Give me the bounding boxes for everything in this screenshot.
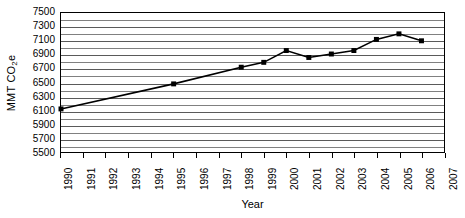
data-point-marker xyxy=(419,38,424,43)
x-axis-tick-label: 2003 xyxy=(358,168,368,190)
y-axis-tick-label: 5700 xyxy=(33,134,55,144)
y-axis-tick-label: 6900 xyxy=(33,49,55,59)
x-axis-tick-label: 2005 xyxy=(404,168,414,190)
x-axis-tick-label: 1996 xyxy=(200,168,210,190)
x-axis-tick-label: 1991 xyxy=(87,168,97,190)
x-axis-tick-label: 1990 xyxy=(64,168,74,190)
x-axis-tick-label: 2007 xyxy=(449,168,459,190)
data-point-marker xyxy=(351,48,356,53)
y-axis-title-text: MMT CO2e xyxy=(5,54,17,111)
data-point-marker xyxy=(284,48,289,53)
data-point-marker xyxy=(261,60,266,65)
data-point-marker xyxy=(396,31,401,36)
data-series-line xyxy=(61,13,444,152)
x-axis-title: Year xyxy=(60,198,445,210)
data-point-marker xyxy=(306,55,311,60)
x-axis-tick-label: 1994 xyxy=(155,168,165,190)
y-axis-tick-label: 5900 xyxy=(33,120,55,130)
chart-container: MMT CO2e 5500570059006100630065006700690… xyxy=(0,0,465,218)
x-axis-tick-label: 1992 xyxy=(109,168,119,190)
x-axis-tick xyxy=(445,153,446,158)
x-axis-tick-label: 1997 xyxy=(223,168,233,190)
y-axis-tick-label: 6300 xyxy=(33,92,55,102)
x-axis-tick-label: 2006 xyxy=(426,168,436,190)
x-axis-tick-label: 2002 xyxy=(336,168,346,190)
y-axis-title-subscript: 2 xyxy=(10,61,19,66)
x-axis-tick-label: 2004 xyxy=(381,168,391,190)
data-point-marker xyxy=(171,81,176,86)
data-point-marker xyxy=(59,106,64,111)
data-point-marker xyxy=(329,52,334,57)
y-axis-tick-label: 7300 xyxy=(33,21,55,31)
series-polyline xyxy=(61,34,421,109)
x-axis-tick-label: 2000 xyxy=(290,168,300,190)
plot-area xyxy=(60,12,445,153)
y-axis-tick-label: 6100 xyxy=(33,106,55,116)
y-axis-tick-label: 5500 xyxy=(33,148,55,158)
x-axis-tick-label: 1998 xyxy=(245,168,255,190)
x-axis-tick-label: 1995 xyxy=(177,168,187,190)
x-axis-tick-label: 1999 xyxy=(268,168,278,190)
y-axis-tick-label: 7100 xyxy=(33,35,55,45)
x-axis-tick-label: 1993 xyxy=(132,168,142,190)
y-axis-tick-label: 7500 xyxy=(33,7,55,17)
y-axis-title-suffix: e xyxy=(5,54,17,60)
data-point-marker xyxy=(374,37,379,42)
x-axis-tick-label: 2001 xyxy=(313,168,323,190)
y-axis-tick-labels: 5500570059006100630065006700690071007300… xyxy=(22,0,58,165)
y-axis-title-prefix: MMT CO xyxy=(5,65,17,111)
x-axis-tick-labels: 1990199119921993199419951996199719981999… xyxy=(60,158,445,194)
y-axis-title: MMT CO2e xyxy=(0,0,22,165)
data-point-marker xyxy=(239,65,244,70)
y-axis-tick-label: 6500 xyxy=(33,78,55,88)
y-axis-tick-label: 6700 xyxy=(33,63,55,73)
